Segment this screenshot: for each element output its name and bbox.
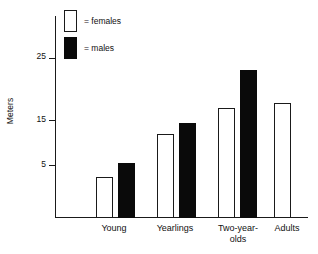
y-tick-25	[49, 58, 56, 59]
bar-two-year-olds-males	[240, 70, 257, 218]
y-tick-5	[49, 165, 56, 166]
y-tick-15	[49, 120, 56, 121]
x-category-label-adults: Adults	[255, 223, 318, 234]
legend-label-males: = males	[84, 43, 114, 53]
bar-young-females	[96, 177, 113, 218]
bar-yearlings-females	[157, 134, 174, 218]
bar-adults-females	[274, 103, 291, 218]
legend-item-females: = females	[64, 10, 121, 32]
x-category-label-yearlings: Yearlings	[143, 223, 207, 234]
bar-two-year-olds-females	[218, 108, 235, 218]
x-category-label-two-year-olds-line2: olds	[230, 234, 247, 244]
legend-swatch-females-icon	[64, 10, 77, 32]
plot-area: 25 15 5 Young Yearlings Two-year- olds A…	[0, 0, 318, 254]
bar-yearlings-males	[179, 123, 196, 218]
y-tick-label-15: 15	[16, 115, 46, 124]
bar-chart: Meters 25 15 5 Young Yearlings Two-year-…	[0, 0, 318, 254]
legend-item-males: = males	[64, 37, 114, 59]
y-axis-line	[55, 16, 56, 218]
x-category-label-two-year-olds-line1: Two-year-	[218, 223, 258, 233]
legend-label-females: = females	[84, 16, 121, 26]
y-tick-label-25: 25	[16, 52, 46, 61]
y-tick-label-5: 5	[16, 160, 46, 169]
legend-swatch-males-icon	[64, 37, 77, 59]
bar-young-males	[118, 163, 135, 218]
x-category-label-young: Young	[82, 223, 146, 234]
